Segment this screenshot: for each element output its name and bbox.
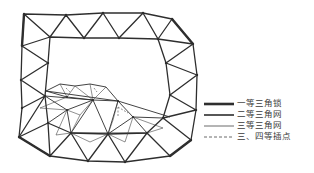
legend-label: 一等三角锁	[237, 98, 282, 109]
legend: 一等三角锁 二等三角网 三等三角网 三、四等插点	[204, 98, 312, 142]
legend-label: 二等三角网	[237, 109, 282, 120]
legend-item-second-order: 二等三角网	[204, 109, 312, 120]
legend-item-third-order: 三等三角网	[204, 120, 312, 131]
dashed-line-icon	[204, 135, 234, 139]
interpolated-points	[66, 88, 128, 117]
legend-item-interpolated: 三、四等插点	[204, 131, 312, 142]
legend-item-first-order: 一等三角锁	[204, 98, 312, 109]
medium-line-icon	[204, 113, 234, 117]
triangulation-network-diagram	[0, 0, 314, 173]
legend-label: 三、四等插点	[237, 131, 291, 142]
thick-line-icon	[204, 102, 234, 106]
legend-label: 三等三角网	[237, 120, 282, 131]
first-order-chain	[19, 13, 197, 162]
station-points	[18, 12, 198, 163]
thin-line-icon	[204, 124, 234, 128]
